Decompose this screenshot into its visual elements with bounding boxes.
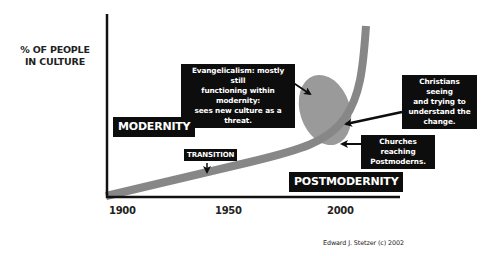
christians-seeing-arrow [346, 112, 402, 124]
churches-reaching-callout: Churches reaching Postmoderns. [361, 135, 435, 169]
y-axis-label: % OF PEOPLE IN CULTURE [20, 44, 90, 68]
callout-line: functioning within modernity: [184, 86, 292, 106]
x-tick-1950: 1950 [215, 205, 242, 216]
credit-text: Edward J. Stetzer (c) 2002 [323, 239, 404, 247]
evangelicalism-callout: Evangelicalism: mostly still functioning… [181, 64, 295, 128]
y-axis-label-line2: IN CULTURE [20, 56, 90, 68]
callout-line: Evangelicalism: mostly still [184, 66, 292, 86]
x-tick-1900: 1900 [109, 205, 136, 216]
callout-line: change. [405, 117, 474, 127]
y-axis-label-line1: % OF PEOPLE [20, 44, 90, 56]
callout-line: understand the [405, 107, 474, 117]
x-tick-2000: 2000 [327, 205, 354, 216]
callout-line: and trying to [405, 97, 474, 107]
callout-line: Christians seeing [405, 77, 474, 97]
transition-label: TRANSITION [184, 149, 237, 161]
callout-line: Churches reaching [364, 137, 432, 157]
christians-seeing-callout: Christians seeing and trying to understa… [402, 75, 477, 129]
callout-line: Postmoderns. [364, 157, 432, 167]
postmodernity-label: POSTMODERNITY [289, 172, 403, 192]
callout-line: sees new culture as a threat. [184, 106, 292, 126]
modernity-label: MODERNITY [113, 117, 195, 137]
